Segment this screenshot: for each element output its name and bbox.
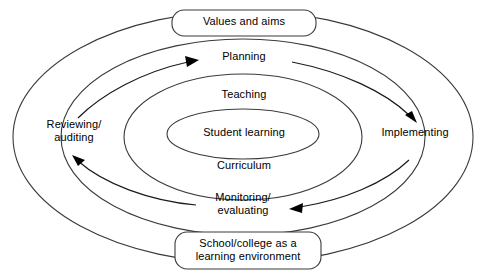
arc-reviewing-to-planning (78, 62, 188, 118)
diagram-canvas: Values and aims School/college as a lear… (0, 0, 485, 276)
label-student-learning: Student learning (180, 126, 308, 139)
arc-planning-to-implementing (292, 62, 409, 115)
label-teaching: Teaching (197, 88, 291, 101)
arc-implementing-to-monitoring (300, 160, 409, 207)
label-reviewing-auditing: Reviewing/ auditing (33, 118, 115, 144)
label-school-college: School/college as a learning environment (175, 237, 321, 263)
arrow-to-reviewing-icon (72, 155, 85, 166)
arc-monitoring-to-reviewing (78, 161, 196, 205)
label-values-and-aims: Values and aims (172, 15, 316, 28)
label-monitoring-evaluating: Monitoring/ evaluating (191, 191, 295, 217)
arrow-to-planning-icon (185, 56, 199, 67)
label-curriculum: Curriculum (197, 159, 291, 172)
label-implementing: Implementing (368, 126, 462, 139)
label-planning: Planning (200, 50, 288, 63)
